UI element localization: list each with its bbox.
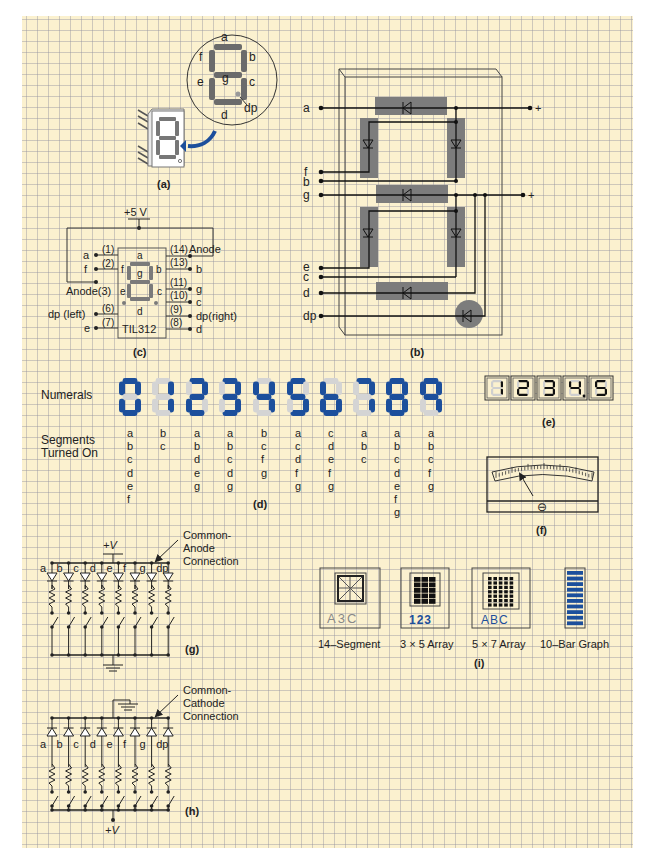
segment-f — [152, 382, 158, 396]
segment-f — [386, 382, 392, 396]
resistor-icon — [82, 585, 88, 613]
led-icon — [80, 573, 90, 581]
b-label-dp: dp — [303, 309, 317, 323]
pin-num-13: (13) — [170, 257, 188, 268]
segment-b — [336, 382, 342, 396]
pin-label-anode14: Anode — [189, 243, 221, 255]
seg-label-dp: dp — [244, 101, 258, 115]
segment-list-item: d — [194, 453, 200, 465]
dot-matrix-cell — [499, 581, 503, 584]
pin-num-10: (10) — [170, 290, 188, 301]
segment-c — [605, 389, 607, 395]
segment-list-item: e — [194, 467, 200, 479]
segment-f — [517, 381, 519, 387]
dot-matrix-cell — [499, 599, 503, 602]
resistor-icon — [66, 585, 72, 613]
segment-label-f: f — [123, 738, 127, 750]
segment-list-item: g — [261, 467, 267, 479]
segment-list-item: f — [261, 453, 265, 465]
h-annotation-3: Connection — [183, 710, 239, 722]
decimal-point — [583, 395, 586, 398]
h-annotation-arrow-icon — [156, 695, 178, 716]
segment-list-item: b — [361, 440, 367, 452]
segment-list-item: c — [295, 440, 301, 452]
segment-list-item: a — [361, 427, 368, 439]
chip-seg-f: f — [121, 264, 124, 275]
segment-d — [596, 394, 605, 396]
pin-label-b: b — [196, 263, 202, 275]
pin-label-e: e — [84, 322, 90, 334]
segment-c — [501, 389, 503, 395]
segment-b — [303, 382, 309, 396]
resistor-icon — [49, 764, 55, 792]
dot-matrix-cell — [510, 599, 514, 602]
segment-b — [369, 382, 375, 396]
pin-num-2: (2) — [102, 258, 114, 269]
segment-e — [353, 399, 359, 413]
segment-label-f: f — [123, 562, 127, 574]
caption-e: (e) — [542, 416, 556, 428]
segment-label-c: c — [73, 738, 79, 750]
segment-list-item: b — [227, 440, 233, 452]
g-annotation-arrow-icon — [156, 540, 178, 561]
segment-e — [595, 389, 597, 395]
g-annotation-2: Anode — [183, 542, 215, 554]
segment-g — [257, 394, 272, 400]
segment-column-d: d — [90, 716, 108, 812]
chip-seg-c: c — [157, 286, 162, 297]
dot-matrix-cell — [504, 581, 508, 584]
pin-label-d: d — [196, 323, 202, 335]
resistor-icon — [132, 585, 138, 613]
segment-d — [518, 394, 527, 396]
seg-label-c: c — [249, 75, 255, 89]
dot-matrix-cell — [422, 577, 429, 582]
pin-num-14: (14) — [170, 244, 188, 255]
seg-label-f: f — [199, 50, 203, 64]
led-icon — [64, 728, 74, 736]
segment-g — [424, 394, 439, 400]
pin-num-6: (6) — [102, 303, 114, 314]
dot-matrix-cell — [422, 599, 429, 604]
segment-list-item: e — [328, 453, 334, 465]
dot-matrix-cell — [493, 603, 497, 606]
segment-list-item: a — [295, 427, 302, 439]
segment-list-item: g — [194, 480, 200, 492]
chip-seg-b: b — [156, 264, 162, 275]
segment-d — [492, 394, 501, 396]
label-3x5: 3 × 5 Array — [400, 638, 454, 650]
segment-column-c: c — [73, 716, 91, 812]
ground-icon — [103, 665, 123, 671]
caption-g: (g) — [185, 643, 199, 655]
ground-icon — [118, 704, 138, 710]
label-5x7: 5 × 7 Array — [472, 638, 526, 650]
segment-list-item: e — [394, 480, 400, 492]
segment-label-g: g — [140, 738, 146, 750]
numeral-9 — [420, 378, 442, 416]
led-icon — [147, 728, 157, 736]
segment-e — [152, 399, 158, 413]
segment-g — [492, 387, 501, 389]
segment-a — [544, 380, 553, 382]
g-annotation-3: Connection — [183, 555, 239, 567]
segment-label-d: d — [90, 562, 96, 574]
segment-list-item: e — [127, 480, 133, 492]
segment-column-c: c — [73, 561, 91, 657]
segment-g — [156, 394, 171, 400]
segment-list-item: c — [428, 453, 434, 465]
dot-matrix-cell — [422, 588, 429, 593]
segment-f — [595, 381, 597, 387]
segment-g — [291, 394, 306, 400]
segment-f — [491, 381, 493, 387]
segment-list-item: f — [295, 467, 299, 479]
panel-e: (e) — [485, 376, 613, 428]
caption-i: (i) — [474, 657, 485, 669]
segment-b — [579, 381, 581, 387]
sample-3x5: 123 — [409, 613, 432, 627]
dot-matrix-cell — [493, 577, 497, 580]
zero-adjust-icon: ⊖ — [537, 500, 547, 514]
segment-list-item: c — [328, 427, 334, 439]
sample-5x7: ABC — [481, 613, 509, 627]
resistor-icon — [49, 585, 55, 613]
chip-name: TIL312 — [122, 323, 156, 335]
dot-matrix-cell — [422, 583, 429, 588]
